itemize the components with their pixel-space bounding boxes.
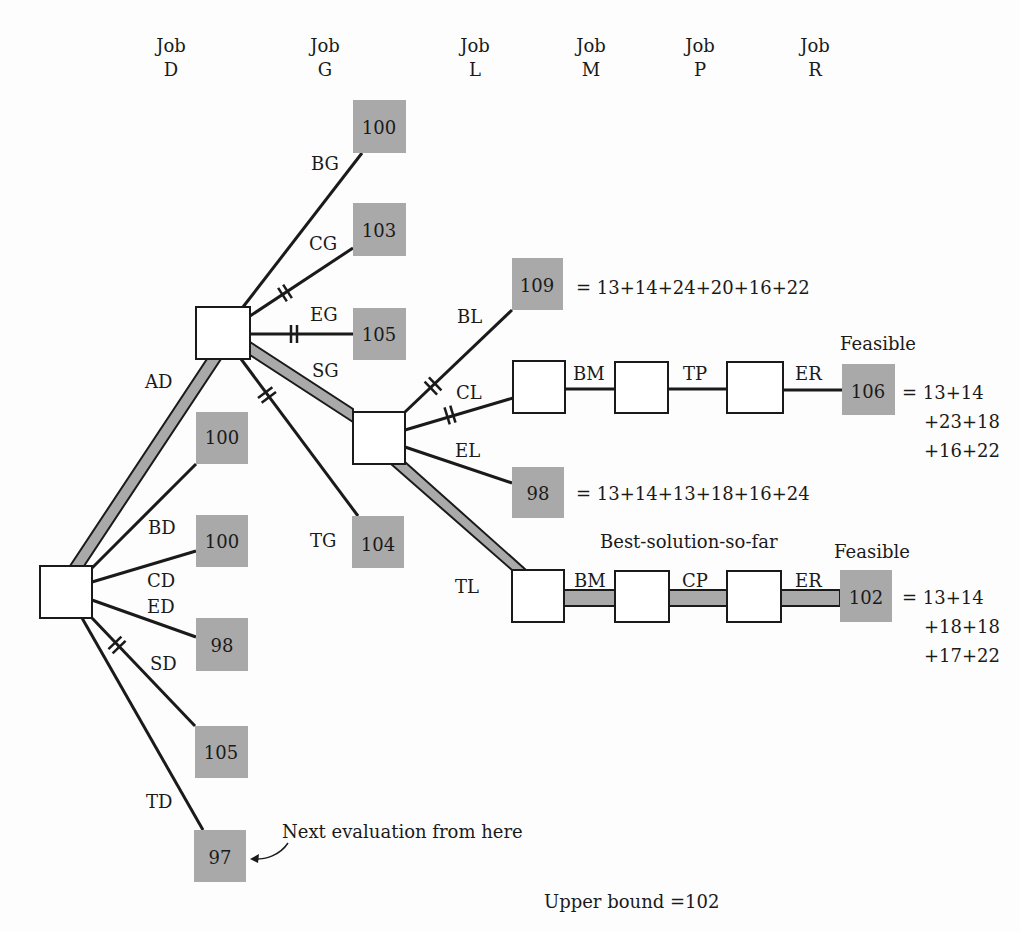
edge-label-bg: BG bbox=[311, 153, 339, 174]
node-ad[interactable] bbox=[196, 307, 250, 359]
bound-node-tg[interactable]: 104 bbox=[352, 516, 404, 568]
formula-upper-line3: +16+22 bbox=[924, 440, 1000, 461]
header-job-m-line2: M bbox=[582, 59, 600, 80]
feasible-label-upper: Feasible bbox=[840, 333, 916, 354]
edge-er-lower-path bbox=[781, 590, 840, 606]
edge-label-er-lower: ER bbox=[795, 570, 822, 591]
edge-td bbox=[82, 618, 203, 830]
formula-upper-line1: = 13+14 bbox=[902, 382, 984, 403]
edge-cd bbox=[92, 551, 196, 582]
bound-value: 100 bbox=[362, 117, 396, 138]
edge-label-tp-upper: TP bbox=[683, 363, 707, 384]
header-job-p-line1: Job bbox=[683, 35, 715, 56]
edge-label-ad: AD bbox=[144, 371, 172, 392]
node-cl-bm[interactable] bbox=[615, 362, 668, 413]
bound-value: 100 bbox=[205, 531, 239, 552]
edge-label-sd: SD bbox=[150, 653, 177, 674]
node-tl-bm[interactable] bbox=[615, 571, 669, 622]
upper-bound-label: Upper bound =102 bbox=[544, 891, 719, 912]
bound-value: 98 bbox=[527, 483, 550, 504]
node-cl-bm-tp[interactable] bbox=[727, 362, 783, 413]
bound-node-eg[interactable]: 105 bbox=[353, 308, 406, 360]
edge-label-bl: BL bbox=[457, 306, 482, 327]
formula-el: = 13+14+13+18+16+24 bbox=[576, 483, 810, 504]
next-evaluation-note: Next evaluation from here bbox=[282, 821, 523, 842]
bound-value: 102 bbox=[849, 587, 883, 608]
edge-label-bd: BD bbox=[148, 517, 176, 538]
header-job-r-line2: R bbox=[808, 59, 822, 80]
edge-label-tl: TL bbox=[455, 576, 479, 597]
formula-lower-line1: = 13+14 bbox=[902, 587, 984, 608]
edge-label-cg: CG bbox=[309, 233, 337, 254]
edge-cg bbox=[250, 248, 353, 316]
edge-sd bbox=[92, 618, 195, 726]
header-job-l-line2: L bbox=[469, 59, 481, 80]
node-sg[interactable] bbox=[353, 412, 405, 464]
bound-value: 104 bbox=[361, 534, 395, 555]
best-solution-label: Best-solution-so-far bbox=[600, 531, 778, 552]
bound-node-er-upper[interactable]: 106 bbox=[842, 364, 895, 415]
bound-node-bl[interactable]: 109 bbox=[512, 258, 563, 310]
header-job-g-line2: G bbox=[318, 59, 332, 80]
edge-label-tg: TG bbox=[310, 530, 336, 551]
bound-value: 98 bbox=[211, 635, 234, 656]
edge-label-cl: CL bbox=[456, 382, 482, 403]
header-job-d-line1: Job bbox=[154, 35, 186, 56]
cut-marker-cl bbox=[444, 406, 455, 425]
edge-tl-path bbox=[391, 462, 526, 570]
bound-value: 103 bbox=[362, 220, 396, 241]
bound-node-er-lower[interactable]: 102 bbox=[840, 570, 892, 622]
bound-node-td[interactable]: 97 bbox=[194, 830, 246, 882]
header-job-l-line1: Job bbox=[458, 35, 490, 56]
diagram-canvas: Job D Job G Job L Job M Job P Job R bbox=[0, 0, 1020, 932]
formula-bl: = 13+14+24+20+16+22 bbox=[576, 277, 810, 298]
feasible-label-lower: Feasible bbox=[834, 541, 910, 562]
header-job-m-line1: Job bbox=[574, 35, 606, 56]
bound-node-cd[interactable]: 100 bbox=[196, 515, 248, 567]
bound-value: 97 bbox=[209, 847, 232, 868]
bound-value: 105 bbox=[362, 324, 396, 345]
edge-bm-lower-path bbox=[564, 590, 615, 606]
edge-ed bbox=[92, 600, 196, 637]
header-job-d-line2: D bbox=[164, 59, 178, 80]
node-cl[interactable] bbox=[513, 361, 565, 413]
formula-lower-line3: +17+22 bbox=[924, 645, 1000, 666]
edge-label-el: EL bbox=[455, 440, 480, 461]
edge-label-ed: ED bbox=[147, 596, 175, 617]
bound-value: 105 bbox=[204, 742, 238, 763]
edge-label-td: TD bbox=[146, 791, 172, 812]
node-tl-bm-cp[interactable] bbox=[727, 571, 781, 622]
bound-value: 100 bbox=[205, 427, 239, 448]
bound-node-cg[interactable]: 103 bbox=[353, 203, 406, 256]
edge-label-bm-lower: BM bbox=[574, 570, 606, 591]
bound-node-sd[interactable]: 105 bbox=[195, 726, 248, 778]
edge-label-cd: CD bbox=[147, 570, 175, 591]
formula-upper-line2: +23+18 bbox=[924, 411, 1000, 432]
node-tl[interactable] bbox=[512, 570, 564, 622]
bound-node-bd[interactable]: 100 bbox=[196, 412, 248, 464]
branch-and-bound-tree-diagram: Job D Job G Job L Job M Job P Job R bbox=[0, 0, 1020, 932]
edge-label-sg: SG bbox=[312, 360, 339, 381]
edge-label-eg: EG bbox=[310, 304, 338, 325]
node-root[interactable] bbox=[40, 566, 92, 618]
edge-cp-lower-path bbox=[669, 590, 727, 606]
arrowhead-icon bbox=[250, 854, 259, 863]
formula-lower-line2: +18+18 bbox=[924, 616, 1000, 637]
edge-sg-path bbox=[250, 342, 353, 422]
bound-node-el[interactable]: 98 bbox=[512, 467, 564, 518]
column-headers: Job D Job G Job L Job M Job P Job R bbox=[154, 35, 830, 80]
edge-label-cp-lower: CP bbox=[682, 570, 708, 591]
edge-bg bbox=[243, 153, 362, 307]
edge-label-er-upper: ER bbox=[795, 363, 822, 384]
bound-node-bg[interactable]: 100 bbox=[353, 100, 406, 153]
header-job-g-line1: Job bbox=[308, 35, 340, 56]
header-job-p-line2: P bbox=[694, 59, 706, 80]
header-job-r-line1: Job bbox=[798, 35, 830, 56]
bound-node-ed[interactable]: 98 bbox=[196, 618, 248, 671]
bound-value: 109 bbox=[520, 275, 554, 296]
edge-label-bm-upper: BM bbox=[573, 363, 605, 384]
bound-value: 106 bbox=[851, 381, 885, 402]
